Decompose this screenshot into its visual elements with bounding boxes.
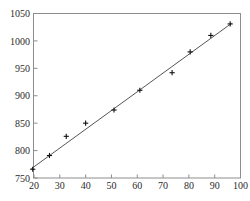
y-tick-label: 950 [15,63,30,74]
x-tick-label: 50 [106,180,116,191]
data-point-marker [30,167,35,172]
y-tick-label: 800 [15,145,30,156]
y-axis-tick-labels: 75080085090095010001050 [10,8,30,184]
x-tick-label: 100 [233,180,248,191]
x-tick-label: 80 [184,180,194,191]
data-point-marker [64,134,69,139]
y-tick-label: 1050 [10,8,30,19]
x-tick-label: 20 [29,180,39,191]
y-tick-label: 750 [15,173,30,184]
x-tick-label: 90 [210,180,220,191]
data-point-marker [83,121,88,126]
x-axis-ticks [34,175,241,179]
y-tick-label: 1000 [10,36,30,47]
plot-frame [34,14,241,179]
y-axis-ticks [34,14,38,179]
plot-canvas: 75080085090095010001050 2030405060708090… [0,0,250,201]
fitted-regression-line [31,23,231,168]
scatter-plot-figure: 75080085090095010001050 2030405060708090… [0,0,250,201]
data-point-marker [188,49,193,54]
x-tick-label: 60 [132,180,142,191]
y-tick-label: 900 [15,90,30,101]
x-tick-label: 40 [81,180,91,191]
x-tick-label: 30 [55,180,65,191]
data-point-marker [169,70,174,75]
data-point-marker [111,107,116,112]
y-tick-label: 850 [15,118,30,129]
x-axis-tick-labels: 2030405060708090100 [29,180,248,191]
x-tick-label: 70 [158,180,168,191]
